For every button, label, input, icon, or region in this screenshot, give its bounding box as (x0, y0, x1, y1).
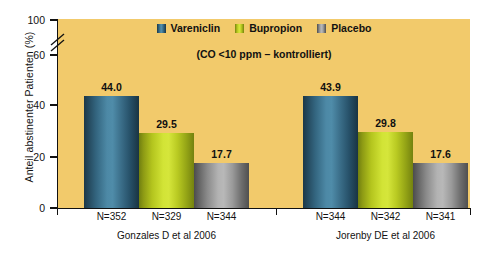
legend-item-placebo[interactable]: Placebo (317, 22, 371, 34)
bar-value-label-bupropion-group-2: 29.8 (356, 117, 416, 129)
chart-subtitle: (CO <10 ppm – kontrolliert) (58, 48, 470, 60)
y-axis-tick-label-60: 60 (5, 49, 45, 61)
group-label-2: Jorenby DE et al 2006 (276, 230, 496, 241)
y-axis-tick-100 (50, 19, 57, 20)
bar-vareniclin-group-1[interactable] (84, 96, 139, 208)
y-axis-tick-40 (50, 104, 57, 105)
y-axis-tick-20 (50, 156, 57, 157)
bar-placebo-group-1[interactable] (194, 163, 249, 208)
legend-item-bupropion[interactable]: Bupropion (235, 22, 302, 34)
legend-label-bupropion: Bupropion (249, 22, 302, 34)
x-axis-tick-0 (57, 208, 58, 215)
legend-swatch-bupropion-icon (235, 24, 244, 33)
legend-label-vareniclin: Vareniclin (171, 22, 221, 34)
chart-legend: Vareniclin Bupropion Placebo (58, 22, 470, 34)
bar-chart: Anteil abstinenter Patienten (%) 0204060… (0, 0, 497, 256)
bar-bupropion-group-1[interactable] (139, 133, 194, 208)
y-axis-tick-label-0: 0 (5, 202, 45, 214)
legend-label-placebo: Placebo (331, 22, 371, 34)
n-label-placebo-group-2: N=341 (406, 211, 476, 222)
bar-value-label-vareniclin-group-1: 44.0 (82, 81, 142, 93)
group-label-1: Gonzales D et al 2006 (57, 230, 277, 241)
y-axis-tick-0 (50, 207, 57, 208)
legend-item-vareniclin[interactable]: Vareniclin (157, 22, 221, 34)
bar-value-label-bupropion-group-1: 29.5 (137, 118, 197, 130)
n-label-placebo-group-1: N=344 (187, 211, 257, 222)
y-axis-tick-label-100: 100 (5, 14, 45, 26)
bar-vareniclin-group-2[interactable] (303, 96, 358, 208)
bar-value-label-placebo-group-2: 17.6 (411, 148, 471, 160)
bar-bupropion-group-2[interactable] (358, 132, 413, 208)
y-axis-tick-label-20: 20 (5, 151, 45, 163)
bar-placebo-group-2[interactable] (413, 163, 468, 208)
legend-swatch-vareniclin-icon (157, 24, 166, 33)
bar-value-label-vareniclin-group-2: 43.9 (301, 81, 361, 93)
x-axis-tick-1 (276, 208, 277, 215)
x-axis-tick-2 (470, 208, 471, 215)
bar-value-label-placebo-group-1: 17.7 (192, 148, 252, 160)
x-axis-line (57, 208, 471, 209)
y-axis-tick-label-40: 40 (5, 99, 45, 111)
legend-swatch-placebo-icon (317, 24, 326, 33)
y-axis-tick-60 (50, 54, 57, 55)
